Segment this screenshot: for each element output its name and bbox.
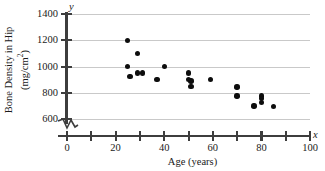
x-axis-symbol: x [313,129,318,140]
x-axis-tick-label: 0 [47,143,87,154]
y-axis-title-line1: Bone Density in Hip [3,27,15,114]
x-axis-tick [236,131,238,141]
y-axis-tick-label: 1200 [18,35,58,46]
gridline [67,14,310,15]
data-point [208,77,213,82]
data-point [251,103,256,108]
x-axis-tick-label: 80 [241,143,281,154]
y-axis-tick [61,92,72,94]
data-point [127,74,132,79]
data-point [271,104,276,109]
data-point [135,51,140,56]
x-axis-tick [66,131,68,141]
y-axis-tick [61,39,72,41]
y-axis-tick-label: 1400 [18,9,58,20]
y-axis-tick-label: 600 [18,114,58,125]
gridline [67,93,310,94]
y-axis-tick [61,118,72,120]
x-axis-tick [163,131,165,141]
y-axis-symbol: y [69,1,74,12]
data-point [125,38,130,43]
y-axis-tick [61,13,72,15]
data-point [188,84,193,89]
x-axis-tick-label: 60 [193,143,233,154]
x-axis-tick [212,131,214,141]
y-axis-line [65,12,68,124]
x-axis-tick [188,131,190,141]
data-point [259,100,264,105]
data-point [140,70,145,75]
x-axis-title: Age (years) [0,156,325,167]
x-axis-tick [90,131,92,141]
y-axis-tick-label: 1000 [18,62,58,73]
data-point [234,84,239,89]
plot-area [67,14,310,119]
data-point [125,64,130,69]
y-axis-tick [61,66,72,68]
x-axis-tick-label: 40 [144,143,184,154]
data-point [154,77,159,82]
y-axis-tick-label: 800 [18,88,58,99]
x-axis-line [58,135,311,137]
y-axis-unit-exponent: 2 [16,54,25,58]
x-axis-tick-label: 20 [96,143,136,154]
x-axis-tick [139,131,141,141]
data-point [234,93,239,98]
x-axis-tick [260,131,262,141]
data-point [186,70,191,75]
y-axis-unit-suffix: ) [19,50,30,54]
x-axis-tick-label: 100 [290,143,325,154]
gridline [67,119,310,120]
x-axis-tick [309,131,311,141]
scatter-plot-figure: Bone Density in Hip (mg/cm2) y x Age (ye… [0,0,325,171]
x-axis-tick [285,131,287,141]
x-axis-tick [115,131,117,141]
data-point [162,64,167,69]
data-point [188,78,193,83]
gridline [67,40,310,41]
gridline [67,67,310,68]
